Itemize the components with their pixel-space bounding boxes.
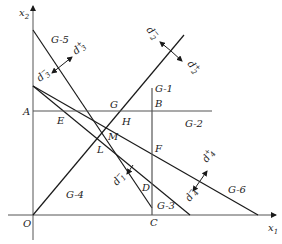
x2-axis-label: x2	[19, 7, 30, 21]
point-e: E	[56, 115, 65, 126]
x1-axis-label: x1	[268, 222, 278, 236]
point-d: D	[141, 182, 150, 193]
label-d3-plus: d+3	[70, 39, 89, 58]
label-d3-minus: d−3	[34, 66, 53, 85]
point-f: F	[154, 143, 163, 154]
label-d2-plus: d+2	[184, 58, 203, 77]
arrow-d4-plus	[200, 171, 207, 181]
origin-label: O	[23, 218, 31, 229]
label-g2: G-2	[185, 118, 203, 129]
point-c: C	[150, 217, 158, 228]
goal-programming-diagram: x2 x1 O G-5 G-1 G-2 G-4 G-3 G-6 A B C D …	[0, 0, 282, 244]
arrow-d2-minus	[160, 42, 171, 51]
arrow-d3-plus	[62, 57, 72, 65]
label-g3: G-3	[157, 200, 175, 211]
point-l: L	[96, 144, 104, 155]
label-g5: G-5	[51, 34, 69, 45]
label-d4-plus: d+4	[199, 147, 218, 165]
point-h: H	[121, 116, 131, 127]
label-d2-minus: d−2	[143, 24, 162, 43]
goal-line-g4	[33, 35, 184, 215]
point-g: G	[110, 99, 118, 110]
goal-line-g5	[33, 30, 152, 208]
point-a: A	[22, 106, 30, 117]
label-g6: G-6	[228, 184, 247, 195]
label-d1-minus: d−1	[109, 170, 128, 189]
label-d4-minus: d−4	[182, 186, 201, 204]
axes	[8, 6, 276, 240]
arrow-d2-plus	[171, 51, 182, 61]
point-m: M	[107, 131, 119, 142]
label-g1: G-1	[155, 83, 173, 94]
label-g4: G-4	[66, 189, 84, 200]
point-b: B	[154, 98, 162, 109]
